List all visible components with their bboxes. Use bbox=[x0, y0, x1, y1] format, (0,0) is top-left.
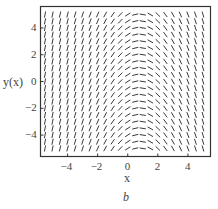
slope-segment bbox=[118, 93, 122, 97]
slope-segment bbox=[187, 105, 189, 111]
slope-segment bbox=[111, 19, 115, 24]
slope-segment bbox=[59, 45, 60, 51]
slope-segment bbox=[89, 112, 91, 118]
slope-segment bbox=[96, 79, 99, 85]
slope-segment bbox=[148, 127, 153, 130]
slope-segment bbox=[148, 47, 153, 50]
slope-segment bbox=[125, 40, 130, 43]
slope-segment bbox=[194, 52, 196, 58]
slope-segment bbox=[132, 94, 138, 95]
slope-segment bbox=[171, 86, 174, 91]
slope-segment bbox=[187, 119, 189, 125]
slope-segment bbox=[125, 73, 130, 76]
slope-segment bbox=[164, 139, 168, 144]
slope-segment bbox=[164, 46, 168, 51]
slope-segment bbox=[171, 112, 174, 117]
slope-segment bbox=[74, 25, 76, 31]
slope-segment bbox=[187, 146, 189, 152]
slope-segment bbox=[52, 25, 53, 31]
slope-segment bbox=[140, 88, 146, 89]
slope-segment bbox=[179, 45, 182, 51]
y-axis-label: y(x) bbox=[3, 76, 23, 88]
slope-segment bbox=[118, 86, 122, 90]
slope-segment bbox=[202, 125, 204, 131]
slope-segment bbox=[187, 99, 189, 105]
slope-segment bbox=[179, 132, 182, 138]
slope-segment bbox=[148, 140, 153, 143]
slope-segment bbox=[104, 99, 107, 104]
slope-segment bbox=[202, 45, 204, 51]
slope-segment bbox=[52, 45, 53, 51]
slope-segment bbox=[187, 32, 189, 38]
slope-segment bbox=[194, 92, 196, 98]
slope-segment bbox=[187, 45, 189, 51]
slope-segment bbox=[140, 141, 146, 142]
slope-segment bbox=[44, 105, 45, 111]
slope-segment bbox=[118, 119, 122, 123]
slope-segment bbox=[156, 32, 160, 36]
slope-segment bbox=[118, 113, 122, 117]
slope-segment bbox=[89, 92, 91, 98]
slope-segment bbox=[96, 92, 99, 98]
slope-segment bbox=[59, 125, 60, 131]
slope-segment bbox=[118, 79, 122, 83]
slope-segment bbox=[179, 59, 182, 65]
slope-segment bbox=[187, 79, 189, 85]
slope-segment bbox=[104, 72, 107, 77]
slope-segment bbox=[74, 145, 76, 151]
slope-segment bbox=[171, 72, 174, 77]
slope-segment bbox=[148, 120, 153, 123]
slope-segment bbox=[148, 93, 153, 96]
slope-segment bbox=[44, 145, 45, 151]
slope-segment bbox=[164, 133, 168, 138]
slope-segment bbox=[179, 139, 182, 145]
slope-segment bbox=[44, 139, 45, 145]
slope-segment bbox=[89, 125, 91, 131]
slope-segment bbox=[179, 79, 182, 85]
slope-segment bbox=[67, 25, 69, 31]
slope-segment bbox=[118, 99, 122, 103]
slope-segment bbox=[52, 145, 53, 151]
slope-segment bbox=[82, 18, 84, 24]
slope-segment bbox=[104, 52, 107, 57]
slope-segment bbox=[156, 53, 160, 57]
slope-segment bbox=[132, 141, 138, 142]
slope-segment bbox=[148, 134, 153, 137]
slope-segment bbox=[156, 113, 160, 117]
slope-segment bbox=[164, 72, 168, 77]
slope-segment bbox=[148, 26, 153, 29]
slope-segment bbox=[44, 18, 45, 24]
slope-segment bbox=[194, 72, 196, 78]
slope-segment bbox=[67, 45, 69, 51]
slope-segment bbox=[52, 32, 53, 38]
slope-segment bbox=[74, 99, 76, 105]
slope-segment bbox=[132, 61, 138, 62]
slope-segment bbox=[82, 32, 84, 38]
slope-segment bbox=[179, 85, 182, 91]
slope-segment bbox=[156, 79, 160, 83]
slope-segment bbox=[125, 100, 130, 103]
slope-segment bbox=[202, 139, 204, 145]
slope-segment bbox=[118, 133, 122, 137]
slope-segment bbox=[74, 52, 76, 58]
slope-segments bbox=[44, 11, 203, 151]
slope-segment bbox=[118, 126, 122, 130]
slope-segment bbox=[96, 52, 99, 58]
slope-segment bbox=[67, 139, 69, 145]
slope-segment bbox=[44, 112, 45, 118]
slope-segment bbox=[132, 41, 138, 42]
slope-segment bbox=[202, 12, 204, 18]
slope-segment bbox=[140, 21, 146, 22]
slope-segment bbox=[44, 92, 45, 98]
x-tick-label: −2 bbox=[91, 161, 103, 172]
slope-segment bbox=[179, 112, 182, 118]
slope-segment bbox=[171, 99, 174, 104]
slope-segment bbox=[104, 12, 107, 17]
slope-segment bbox=[89, 59, 91, 65]
slope-segment bbox=[164, 52, 168, 57]
slope-segment bbox=[89, 105, 91, 111]
slope-segment bbox=[96, 65, 99, 71]
slope-segment bbox=[148, 100, 153, 103]
x-tick-label: 4 bbox=[185, 161, 191, 172]
slope-segment bbox=[171, 12, 174, 17]
